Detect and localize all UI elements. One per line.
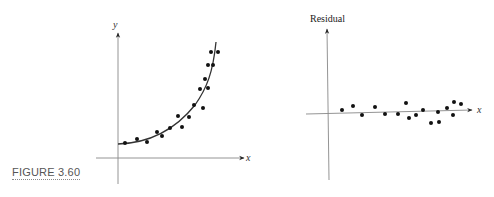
data-point <box>168 126 172 130</box>
data-point <box>429 121 433 125</box>
data-point <box>145 140 149 144</box>
data-point <box>192 103 196 107</box>
data-point <box>211 63 215 67</box>
data-point <box>180 125 184 129</box>
data-point <box>155 130 159 134</box>
left-data-points <box>123 50 220 145</box>
data-point <box>437 120 441 124</box>
data-point <box>135 137 139 141</box>
data-point <box>203 77 207 81</box>
data-point <box>198 87 202 91</box>
data-point <box>176 114 180 118</box>
data-point <box>216 50 220 54</box>
data-point <box>209 50 213 54</box>
data-point <box>451 113 455 117</box>
data-point <box>414 113 418 117</box>
data-point <box>351 104 355 108</box>
left-x-label: x <box>245 152 251 163</box>
right-x-label: x <box>476 104 482 115</box>
data-point <box>206 86 210 90</box>
data-point <box>187 115 191 119</box>
left-plot: y x <box>96 19 251 184</box>
data-point <box>383 112 387 116</box>
data-point <box>360 113 364 117</box>
data-point <box>445 106 449 110</box>
left-y-label: y <box>112 19 118 30</box>
data-point <box>436 110 440 114</box>
data-point <box>340 108 344 112</box>
data-point <box>160 134 164 138</box>
data-point <box>459 102 463 106</box>
right-y-axis <box>327 29 329 180</box>
fit-curve <box>118 42 216 144</box>
right-plot: Residual x <box>306 13 482 180</box>
data-point <box>201 106 205 110</box>
data-point <box>407 116 411 120</box>
data-point <box>452 100 456 104</box>
data-point <box>373 105 377 109</box>
right-x-axis <box>306 110 472 114</box>
data-point <box>404 101 408 105</box>
data-point <box>421 108 425 112</box>
data-point <box>206 63 210 67</box>
data-point <box>123 141 127 145</box>
right-y-label: Residual <box>310 13 345 24</box>
figure-caption: FIGURE 3.60 <box>12 166 80 180</box>
data-point <box>396 112 400 116</box>
